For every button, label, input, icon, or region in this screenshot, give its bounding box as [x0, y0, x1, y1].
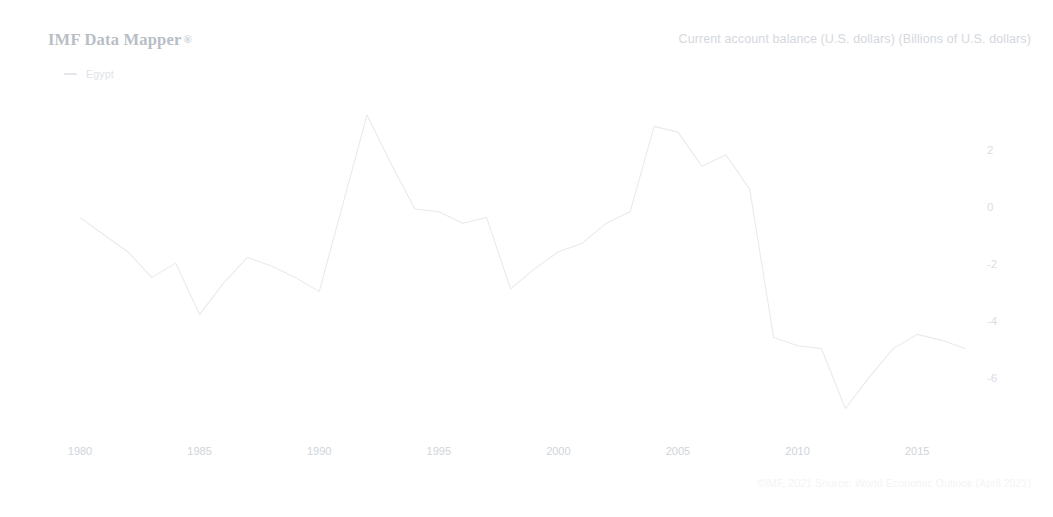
y-axis-tick-label: -6	[987, 372, 997, 384]
imf-data-mapper-chart: IMF Data Mapper® Current account balance…	[0, 0, 1053, 517]
x-axis-tick-label: 2005	[666, 445, 690, 457]
y-axis-tick-label: -4	[987, 315, 997, 327]
x-axis-tick-label: 1990	[307, 445, 331, 457]
x-axis-tick-label: 1980	[68, 445, 92, 457]
x-axis-tick-label: 1995	[427, 445, 451, 457]
x-axis-tick-label: 2015	[905, 445, 929, 457]
chart-svg	[0, 0, 1053, 517]
source-note: ©IMF, 2021 Source: World Economic Outloo…	[757, 477, 1031, 489]
x-axis-tick-label: 2010	[785, 445, 809, 457]
y-axis-tick-label: -2	[987, 258, 997, 270]
plot-area	[0, 0, 1053, 517]
y-axis-tick-label: 0	[987, 201, 993, 213]
x-axis-tick-label: 1985	[187, 445, 211, 457]
data-series-line[interactable]	[80, 115, 965, 409]
x-axis-tick-label: 2000	[546, 445, 570, 457]
y-axis-tick-label: 2	[987, 144, 993, 156]
